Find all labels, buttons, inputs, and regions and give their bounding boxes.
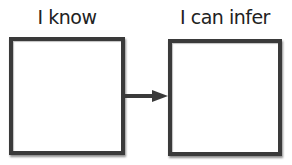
arrow-right-icon <box>124 88 170 104</box>
box-i-know <box>9 37 125 155</box>
label-i-know: I know <box>9 6 125 28</box>
box-i-can-infer <box>168 39 282 156</box>
label-i-can-infer: I can infer <box>168 6 282 28</box>
